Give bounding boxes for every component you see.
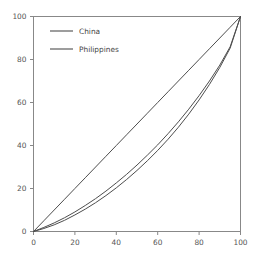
x-tick-label: 80	[194, 238, 204, 247]
x-tick-label: 40	[112, 238, 122, 247]
legend-label-philippines: Philippines	[79, 45, 119, 54]
lorenz-curve-chart: 020406080100 020406080100 China Philippi…	[0, 0, 256, 258]
y-tick-label: 60	[17, 98, 27, 107]
y-tick-label: 80	[17, 55, 27, 64]
y-tick-label: 40	[17, 141, 27, 150]
y-tick-label: 100	[12, 12, 26, 21]
x-tick-label: 0	[31, 238, 36, 247]
y-tick-label: 20	[17, 184, 27, 193]
y-tick-label: 0	[22, 227, 27, 236]
chart-figure: 020406080100 020406080100 China Philippi…	[0, 0, 256, 258]
x-tick-label: 60	[153, 238, 163, 247]
legend-label-china: China	[79, 27, 100, 36]
x-tick-label: 20	[70, 238, 80, 247]
chart-background	[0, 0, 256, 258]
x-tick-label: 100	[233, 238, 247, 247]
